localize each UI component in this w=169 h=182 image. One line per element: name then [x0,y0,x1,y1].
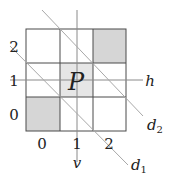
col-label-2: 2 [104,135,114,153]
col-label-1: 1 [72,135,82,153]
row-label-1: 1 [9,72,19,90]
center-label-P: P [67,68,85,96]
row-label-2: 2 [9,38,19,56]
symmetry-diagram: P 2 1 0 0 1 2 h v d2 d1 [0,0,169,182]
row-label-0: 0 [9,106,19,124]
label-d2: d2 [147,116,163,135]
col-label-0: 0 [37,135,47,153]
label-d1: d1 [131,156,147,175]
shaded-cell-0-0 [26,97,60,131]
label-v: v [73,154,82,172]
shaded-cell-2-2 [93,29,126,63]
label-h: h [145,72,155,90]
